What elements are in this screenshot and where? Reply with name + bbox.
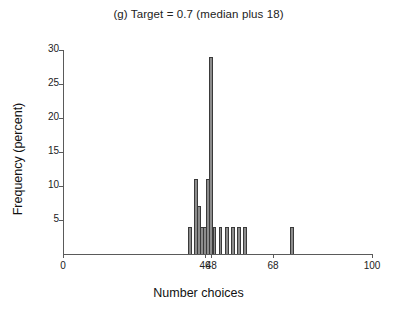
histogram-bar bbox=[209, 57, 213, 254]
x-tick-mark bbox=[372, 254, 373, 258]
x-tick-label: 100 bbox=[364, 260, 381, 271]
plot-area bbox=[63, 50, 372, 254]
x-tick-label: 0 bbox=[60, 260, 66, 271]
y-tick-label: 15 bbox=[48, 145, 59, 156]
y-tick-label: 30 bbox=[48, 43, 59, 54]
histogram-bar bbox=[290, 227, 294, 254]
y-axis-label: Frequency (percent) bbox=[11, 79, 25, 239]
histogram-bar bbox=[243, 227, 247, 254]
histogram-bar bbox=[219, 227, 223, 254]
histogram-bar bbox=[213, 227, 217, 254]
y-tick-label: 5 bbox=[53, 213, 59, 224]
x-tick-mark bbox=[63, 254, 64, 258]
histogram-bar bbox=[225, 227, 229, 254]
x-tick-mark bbox=[273, 254, 274, 258]
y-tick-label: 25 bbox=[48, 77, 59, 88]
y-tick-label: 20 bbox=[48, 111, 59, 122]
histogram-figure: (g) Target = 0.7 (median plus 18) Freque… bbox=[0, 0, 397, 315]
histogram-bar bbox=[231, 227, 235, 254]
x-axis-line bbox=[63, 254, 372, 255]
x-axis-label: Number choices bbox=[0, 286, 397, 300]
histogram-bar bbox=[237, 227, 241, 254]
chart-title: (g) Target = 0.7 (median plus 18) bbox=[0, 8, 397, 20]
x-tick-label: 68 bbox=[268, 260, 279, 271]
histogram-bar bbox=[188, 227, 192, 254]
x-tick-label: 48 bbox=[206, 260, 217, 271]
x-tick-mark bbox=[211, 254, 212, 258]
y-tick-label: 10 bbox=[48, 179, 59, 190]
x-tick-mark bbox=[205, 254, 206, 258]
